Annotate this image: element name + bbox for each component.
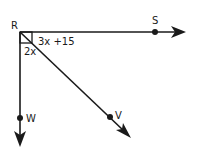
angle-label-vrw: 2x (24, 46, 36, 57)
point-v (107, 114, 113, 120)
point-label-w: W (26, 113, 36, 124)
angle-label-srv: 3x +15 (38, 36, 75, 47)
point-label-v: V (115, 110, 122, 121)
point-w (17, 115, 23, 121)
vertex-label-r: R (11, 20, 18, 31)
diagram-svg: R S V W 3x +15 2x (0, 0, 198, 160)
angle-diagram: R S V W 3x +15 2x (0, 0, 198, 160)
point-s (152, 29, 158, 35)
point-label-s: S (152, 15, 158, 26)
ray-rv (20, 32, 131, 138)
